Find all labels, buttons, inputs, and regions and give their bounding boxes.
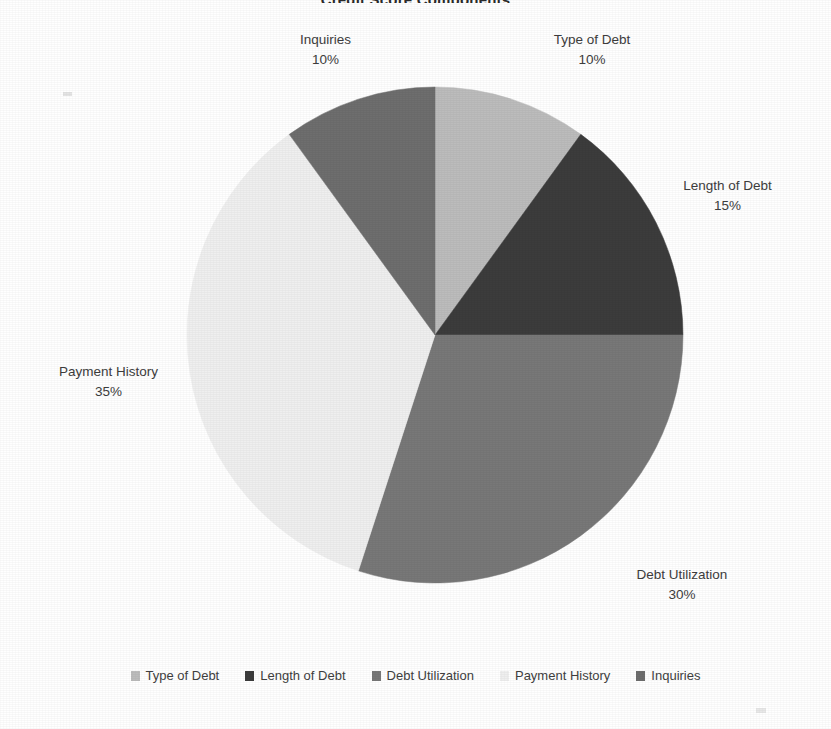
pie-svg: [185, 85, 685, 585]
legend-swatch-icon: [131, 671, 140, 681]
data-label-type-of-debt: Type of Debt 10%: [502, 30, 682, 70]
data-label-value: 35%: [16, 382, 201, 402]
scan-artifact: [756, 708, 766, 713]
legend-item-length-of-debt[interactable]: Length of Debt: [245, 668, 345, 683]
legend-swatch-icon: [245, 671, 254, 681]
data-label-name: Payment History: [59, 364, 158, 379]
legend-swatch-icon: [636, 671, 645, 681]
legend-item-label: Length of Debt: [260, 668, 345, 683]
legend-item-debt-utilization[interactable]: Debt Utilization: [372, 668, 474, 683]
scan-artifact: [63, 92, 72, 96]
data-label-name: Debt Utilization: [637, 567, 728, 582]
pie-graphic: [185, 85, 685, 585]
data-label-value: 10%: [238, 50, 413, 70]
legend-item-inquiries[interactable]: Inquiries: [636, 668, 700, 683]
data-label-length-of-debt: Length of Debt 15%: [640, 176, 815, 216]
legend-item-type-of-debt[interactable]: Type of Debt: [131, 668, 220, 683]
data-label-name: Length of Debt: [683, 178, 772, 193]
legend-item-label: Payment History: [515, 668, 610, 683]
data-label-payment-history: Payment History 35%: [16, 362, 201, 402]
legend-item-label: Debt Utilization: [387, 668, 474, 683]
legend-swatch-icon: [372, 671, 381, 681]
chart-legend: Type of DebtLength of DebtDebt Utilizati…: [0, 668, 831, 683]
data-label-name: Inquiries: [300, 32, 351, 47]
data-label-debt-utilization: Debt Utilization 30%: [582, 565, 782, 605]
data-label-value: 10%: [502, 50, 682, 70]
pie-chart-figure: Credit Score Components Type of Debt 10%…: [0, 0, 831, 729]
data-label-value: 30%: [582, 585, 782, 605]
legend-item-label: Inquiries: [651, 668, 700, 683]
data-label-name: Type of Debt: [554, 32, 631, 47]
legend-swatch-icon: [500, 671, 509, 681]
legend-item-payment-history[interactable]: Payment History: [500, 668, 610, 683]
data-label-inquiries: Inquiries 10%: [238, 30, 413, 70]
data-label-value: 15%: [640, 196, 815, 216]
chart-title: Credit Score Components: [0, 0, 831, 3]
legend-item-label: Type of Debt: [146, 668, 220, 683]
